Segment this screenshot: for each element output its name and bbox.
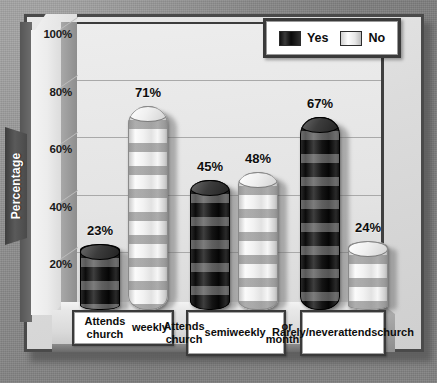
bar-body [238,172,278,310]
legend-swatch-yes-icon [279,31,301,46]
legend[interactable]: Yes No [263,18,401,58]
legend-swatch-no-icon [340,31,362,46]
bar-value-label: 71% [135,85,161,100]
bar-no[interactable] [238,172,278,310]
category-label-box[interactable]: Attends churchweekly [72,310,174,346]
y-axis-title-ribbon: Percentage [5,127,27,245]
bar-value-label: 23% [87,223,113,238]
bar-yes[interactable] [80,244,120,310]
bar-no[interactable] [348,241,388,310]
bar-top-ellipse [300,117,340,133]
bar-value-label: 67% [307,96,333,111]
bar-body [128,106,168,310]
bar-no[interactable] [128,106,168,310]
y-axis-title: Percentage [9,153,23,220]
bar-top-ellipse [128,106,168,122]
gridline [77,80,383,81]
legend-item-no[interactable]: No [340,31,385,46]
legend-inner: Yes No [266,21,398,55]
bar-top-ellipse [238,172,278,188]
bar-top-ellipse [348,241,388,257]
legend-item-yes[interactable]: Yes [279,31,329,46]
legend-label-yes: Yes [307,31,329,45]
bar-body [190,180,230,310]
bar-value-label: 45% [197,159,223,174]
category-label-text: Attends churchweekly [74,312,172,344]
legend-label-no: No [368,31,385,45]
category-label-text: Rarely/neverattendschurch [302,312,384,354]
bar-yes[interactable] [190,180,230,310]
axis-wall-front [31,30,62,315]
chart-screenshot: 100%80%60%40%20%0% Percentage 23%71%45%4… [0,0,437,383]
category-label-box[interactable]: Attends churchsemiweeklyor monthly [186,310,286,356]
bar-value-label: 24% [355,220,381,235]
bar-top-ellipse [80,244,120,260]
category-label-box[interactable]: Rarely/neverattendschurch [300,310,386,356]
bar-value-label: 48% [245,151,271,166]
bar-yes[interactable] [300,117,340,310]
category-label-text: Attends churchsemiweeklyor monthly [188,312,284,354]
bar-body [300,117,340,310]
